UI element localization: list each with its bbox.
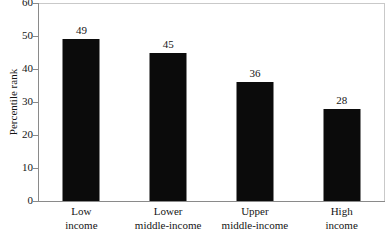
x-axis-category-label-line2: income	[298, 218, 385, 232]
bar	[236, 82, 273, 201]
bar	[63, 39, 100, 201]
bar-value-label: 36	[249, 67, 260, 79]
bar	[150, 53, 187, 202]
x-axis-category-label-line1: Low	[38, 204, 125, 218]
bar-chart: 6050403020100 Percentile rank 49453628 L…	[0, 0, 389, 235]
y-axis-tick-label-text: 60	[9, 0, 33, 8]
y-axis-tick-label: 10	[0, 162, 33, 173]
x-axis-category-label: Highincome	[298, 204, 385, 232]
y-axis-tick-mark	[33, 201, 38, 202]
bar-value-label: 45	[163, 38, 174, 50]
x-axis-category-label-line2: middle-income	[125, 218, 212, 232]
y-axis-tick-label-text: 10	[9, 162, 33, 173]
x-axis-category-label: Uppermiddle-income	[212, 204, 299, 232]
y-axis-tick-label: 0	[0, 195, 33, 206]
x-axis-category-label-line1: High	[298, 204, 385, 218]
x-axis-category-label-line2: income	[38, 218, 125, 232]
y-axis-tick-label-text: 0	[9, 195, 33, 206]
bar-group: 36	[212, 3, 299, 201]
x-axis-category-label-line1: Upper	[212, 204, 299, 218]
bar-group: 49	[38, 3, 125, 201]
bar-value-label: 28	[336, 94, 347, 106]
bar-value-label: 49	[76, 24, 87, 36]
y-axis-tick-label-text: 50	[9, 30, 33, 41]
x-axis-category-label: Lowermiddle-income	[125, 204, 212, 232]
x-axis-category-label-line1: Lower	[125, 204, 212, 218]
x-axis-category-label-line2: middle-income	[212, 218, 299, 232]
bar-group: 45	[125, 3, 212, 201]
bar	[323, 109, 360, 201]
bar-group: 28	[298, 3, 385, 201]
y-axis-tick-label: 50	[0, 30, 33, 41]
y-axis-tick-label: 60	[0, 0, 33, 8]
x-axis-category-labels: LowincomeLowermiddle-incomeUppermiddle-i…	[38, 204, 385, 235]
x-axis-line	[38, 201, 385, 202]
bars-layer: 49453628	[38, 3, 385, 201]
y-axis-title: Percentile rank	[7, 42, 19, 162]
x-axis-category-label: Lowincome	[38, 204, 125, 232]
